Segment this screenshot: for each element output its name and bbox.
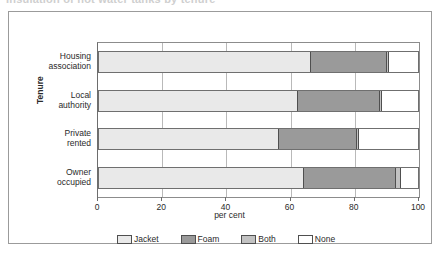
legend-item-none[interactable]: None [298, 234, 335, 244]
y-axis-category-line: authority [13, 100, 91, 110]
y-axis-category-line: occupied [13, 177, 91, 187]
x-tick-20 [161, 197, 162, 201]
figure-frame: Tenure HousingassociationLocalauthorityP… [8, 11, 432, 244]
bar-segment-foam[interactable] [303, 168, 395, 188]
legend-label: None [315, 234, 335, 244]
legend-swatch-icon [117, 235, 132, 244]
x-tick-80 [354, 197, 355, 201]
bar-segment-none[interactable] [358, 129, 418, 149]
bar-segment-none[interactable] [381, 91, 418, 111]
bar-row [98, 51, 419, 73]
y-axis-category-line: Housing [13, 51, 91, 61]
stacked-bar[interactable] [98, 51, 419, 73]
y-axis-category-label: Owneroccupied [13, 167, 91, 187]
bar-segment-none[interactable] [388, 52, 418, 72]
bar-row [98, 90, 419, 112]
y-axis-category-label: Privaterented [13, 128, 91, 148]
x-tick-60 [290, 197, 291, 201]
legend-label: Foam [198, 234, 220, 244]
x-tick-0 [97, 197, 98, 201]
stacked-bar[interactable] [98, 128, 419, 150]
x-tick-40 [225, 197, 226, 201]
stacked-bar[interactable] [98, 167, 419, 189]
y-axis-category-line: Local [13, 90, 91, 100]
bar-row [98, 128, 419, 150]
legend-swatch-icon [181, 235, 196, 244]
bar-segment-jacket[interactable] [99, 91, 297, 111]
bar-row [98, 167, 419, 189]
y-axis-category-line: Owner [13, 167, 91, 177]
x-tick-100 [418, 197, 419, 201]
bar-segment-foam[interactable] [297, 91, 379, 111]
legend-item-both[interactable]: Both [241, 234, 276, 244]
y-axis-category-line: association [13, 61, 91, 71]
bar-segment-foam[interactable] [310, 52, 387, 72]
legend-label: Both [258, 234, 276, 244]
figure-title: Insulation of hot water tanks by tenure [6, 0, 216, 5]
legend-swatch-icon [241, 235, 256, 244]
bar-segment-jacket[interactable] [99, 129, 278, 149]
x-axis-title: per cent [9, 210, 441, 220]
legend-item-jacket[interactable]: Jacket [117, 234, 159, 244]
stacked-bar[interactable] [98, 90, 419, 112]
bar-segment-jacket[interactable] [99, 52, 310, 72]
x-axis-ticks: 020406080100 [97, 197, 418, 202]
y-axis-category-line: rented [13, 138, 91, 148]
legend-item-foam[interactable]: Foam [181, 234, 220, 244]
y-axis-category-line: Private [13, 128, 91, 138]
legend-swatch-icon [298, 235, 313, 244]
bar-segment-none[interactable] [400, 168, 418, 188]
plot-area [97, 42, 420, 198]
bar-segment-foam[interactable] [278, 129, 356, 149]
bar-segment-jacket[interactable] [99, 168, 303, 188]
cropped-title-strip: Insulation of hot water tanks by tenure [0, 0, 441, 9]
legend-label: Jacket [134, 234, 159, 244]
y-axis-category-label: Localauthority [13, 90, 91, 110]
chart-legend: JacketFoamBothNone [117, 234, 335, 244]
y-axis-category-label: Housingassociation [13, 51, 91, 71]
